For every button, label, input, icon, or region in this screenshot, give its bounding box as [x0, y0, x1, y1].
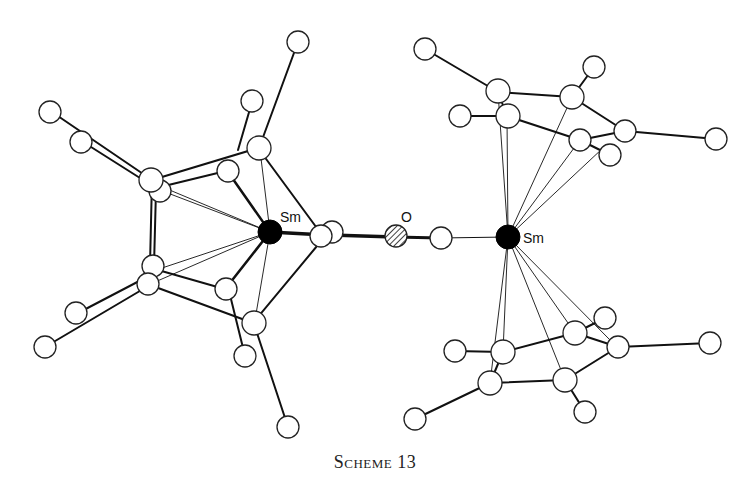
oxo-bridge: O: [270, 209, 508, 249]
oxygen-label: O: [401, 209, 412, 225]
figure-caption: Scheme 13: [0, 452, 750, 473]
carbon-atoms-right: [404, 38, 727, 430]
molecular-structure-diagram: O: [0, 0, 750, 485]
samarium-atom-right: [496, 225, 520, 249]
samarium-atom-left: [258, 220, 282, 244]
oxygen-atom: [385, 225, 407, 247]
right-samarium-unit: [404, 38, 727, 430]
samarium-label-left: Sm: [280, 209, 301, 225]
samarium-label-right: Sm: [523, 230, 544, 246]
